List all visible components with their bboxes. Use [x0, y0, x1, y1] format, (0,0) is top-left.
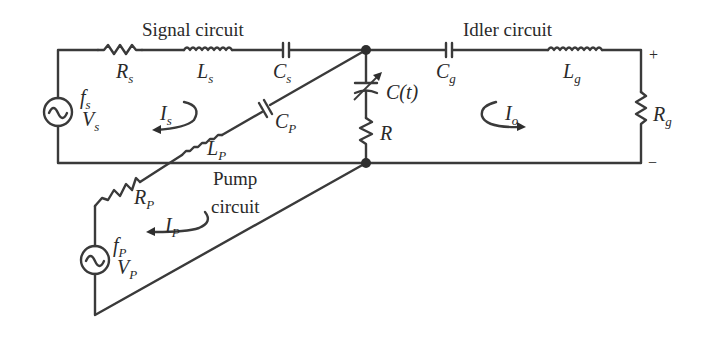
terminal-plus: + [649, 46, 658, 63]
capacitor-cp [259, 100, 272, 117]
idler-circuit-title: Idler circuit [463, 19, 553, 40]
pump-source-icon [81, 246, 109, 274]
resistor-r [360, 118, 372, 163]
pump-circuit-title-line2: circuit [211, 196, 260, 217]
label-ip: IP [164, 214, 180, 240]
inductor-lg [548, 48, 602, 51]
parametric-amplifier-circuit: Signal circuit Idler circuit Pump circui… [0, 0, 702, 341]
pump-circuit-title-line1: Pump [213, 168, 257, 189]
inductor-ls [184, 48, 232, 51]
junction-node-bottom [361, 158, 371, 168]
label-io: Io [504, 102, 519, 128]
terminal-minus: − [648, 154, 657, 171]
signal-circuit-title: Signal circuit [142, 19, 245, 40]
capacitor-cg [446, 43, 452, 57]
label-is: Is [159, 102, 172, 128]
current-arrow-is [152, 102, 196, 134]
label-rp: RP [133, 186, 154, 212]
label-r: R [379, 122, 392, 144]
coupling-branch [354, 50, 382, 163]
label-cg: Cg [436, 60, 456, 86]
junction-node-top [361, 45, 371, 55]
label-lg: Lg [562, 60, 581, 86]
label-vp: VP [117, 256, 137, 282]
varactor-ct [354, 72, 382, 100]
label-cp: CP [275, 110, 296, 136]
label-rg: Rg [652, 103, 672, 129]
current-arrow-io [482, 102, 526, 131]
label-rs: Rs [115, 60, 133, 86]
resistor-rs [98, 45, 142, 54]
label-lp: LP [206, 137, 226, 163]
signal-source-icon [44, 98, 72, 126]
capacitor-cs [283, 43, 289, 57]
label-cs: Cs [273, 60, 291, 86]
label-ct: C(t) [386, 81, 419, 104]
label-vs: Vs [82, 108, 99, 134]
label-ls: Ls [196, 60, 213, 86]
